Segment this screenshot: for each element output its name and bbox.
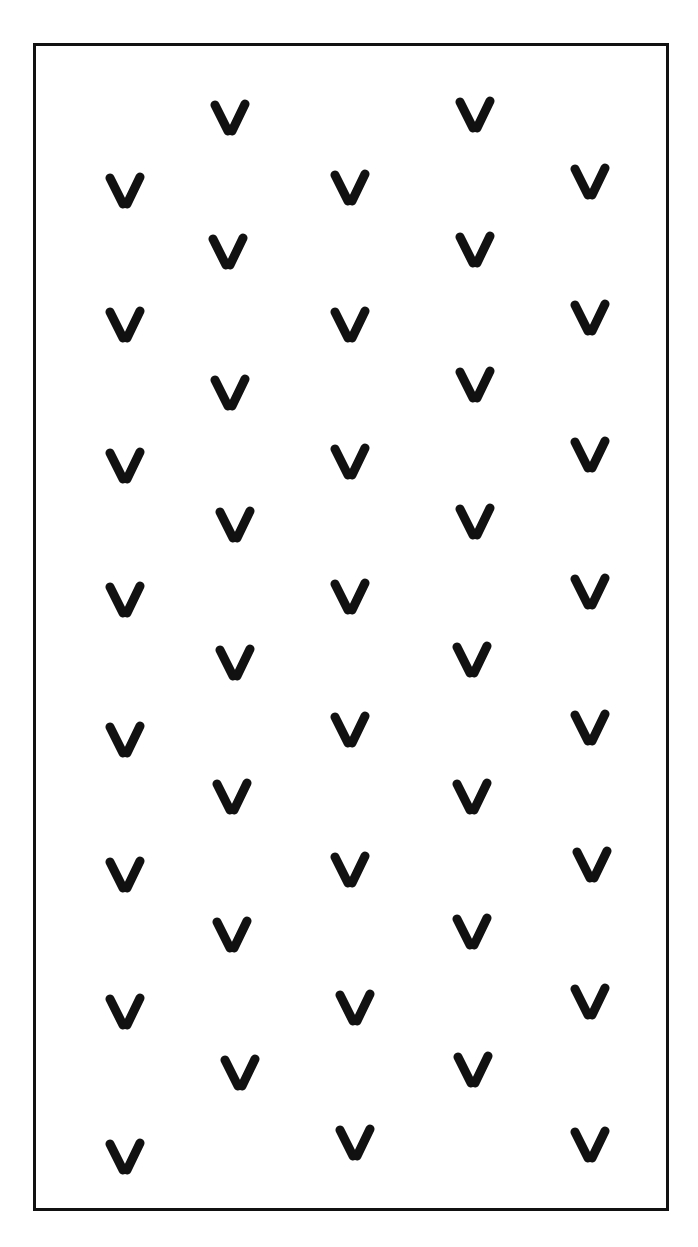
v-mark-icon bbox=[103, 580, 147, 620]
v-mark-icon bbox=[453, 502, 497, 542]
v-mark-icon bbox=[450, 640, 494, 680]
v-mark-icon bbox=[453, 230, 497, 270]
v-mark-icon bbox=[208, 98, 252, 138]
v-mark-icon bbox=[453, 365, 497, 405]
v-mark-icon bbox=[328, 710, 372, 750]
v-mark-icon bbox=[218, 1053, 262, 1093]
v-mark-icon bbox=[208, 373, 252, 413]
v-mark-icon bbox=[450, 912, 494, 952]
v-mark-icon bbox=[103, 171, 147, 211]
v-mark-icon bbox=[568, 435, 612, 475]
v-mark-icon bbox=[568, 298, 612, 338]
v-mark-icon bbox=[568, 708, 612, 748]
v-mark-icon bbox=[328, 168, 372, 208]
v-mark-icon bbox=[333, 1123, 377, 1163]
v-mark-icon bbox=[568, 1125, 612, 1165]
v-mark-icon bbox=[213, 505, 257, 545]
v-mark-icon bbox=[328, 305, 372, 345]
v-mark-icon bbox=[103, 720, 147, 760]
v-mark-icon bbox=[568, 162, 612, 202]
v-mark-icon bbox=[103, 855, 147, 895]
v-mark-icon bbox=[328, 442, 372, 482]
v-mark-icon bbox=[333, 988, 377, 1028]
v-mark-icon bbox=[328, 577, 372, 617]
v-mark-icon bbox=[103, 992, 147, 1032]
plot-frame bbox=[33, 43, 669, 1211]
v-mark-icon bbox=[450, 777, 494, 817]
v-mark-icon bbox=[103, 1137, 147, 1177]
v-mark-icon bbox=[453, 95, 497, 135]
v-mark-icon bbox=[328, 850, 372, 890]
v-mark-icon bbox=[451, 1050, 495, 1090]
v-mark-icon bbox=[206, 232, 250, 272]
v-mark-icon bbox=[570, 845, 614, 885]
v-mark-icon bbox=[103, 446, 147, 486]
v-mark-icon bbox=[103, 305, 147, 345]
v-mark-icon bbox=[568, 982, 612, 1022]
v-mark-icon bbox=[210, 777, 254, 817]
v-mark-icon bbox=[568, 572, 612, 612]
v-mark-icon bbox=[210, 915, 254, 955]
v-mark-icon bbox=[213, 643, 257, 683]
